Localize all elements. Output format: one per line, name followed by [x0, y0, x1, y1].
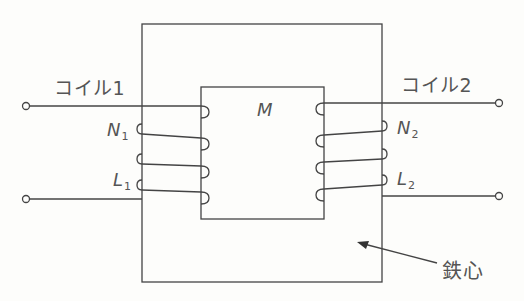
l1-label: L1 [113, 171, 131, 192]
n2-main: N [397, 117, 410, 138]
core-arrow-line [364, 244, 437, 263]
l2-label: L2 [397, 170, 415, 191]
l2-sub: 2 [408, 179, 415, 192]
coil2-label: コイル2 [401, 76, 472, 95]
mutual-inductance-label: M [257, 101, 273, 119]
core-arrow-head [357, 241, 369, 249]
n1-sub: 1 [121, 130, 128, 143]
n2-sub: 2 [411, 128, 418, 141]
coil2-top-terminal [496, 100, 503, 107]
n1-label: N1 [107, 121, 128, 142]
transformer-diagram: コイル1 コイル2 N1 L1 N2 L2 M 鉄心 [0, 0, 524, 301]
core-outer-rect [142, 24, 382, 282]
coil1-label: コイル1 [54, 79, 125, 98]
n2-label: N2 [397, 119, 418, 140]
l1-sub: 1 [124, 180, 131, 193]
coil1-winding [137, 106, 209, 204]
coil2-winding [316, 103, 387, 201]
l2-main: L [397, 168, 407, 189]
diagram-lines [0, 0, 524, 301]
coil1-bottom-terminal [23, 196, 30, 203]
coil2-bottom-terminal [496, 193, 503, 200]
l1-main: L [113, 169, 123, 190]
core-label: 鉄心 [442, 261, 483, 281]
n1-main: N [107, 119, 120, 140]
coil1-top-terminal [23, 103, 30, 110]
